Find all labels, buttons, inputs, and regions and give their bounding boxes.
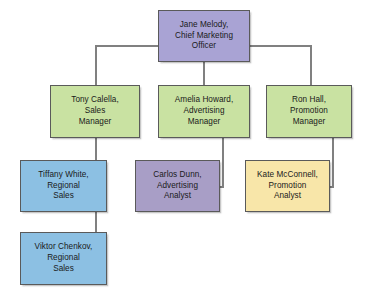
org-node-line: Sales [53, 191, 74, 202]
org-node-line: Sales [53, 264, 74, 275]
edge-jane-to-ron [250, 46, 311, 85]
org-node-line: Sales [85, 106, 106, 117]
org-node-line: Viktor Chenkov, [35, 242, 93, 253]
org-node-carlos-dunn[interactable]: Carlos Dunn, Advertising Analyst [135, 160, 220, 212]
org-node-line: Analyst [274, 191, 301, 202]
org-node-amelia-howard[interactable]: Amelia Howard, Advertising Manager [158, 85, 250, 138]
org-node-line: Amelia Howard, [175, 95, 234, 106]
org-node-tony-calella[interactable]: Tony Calella, Sales Manager [50, 85, 140, 138]
org-node-tiffany-white[interactable]: Tiffany White, Regional Sales [20, 160, 107, 212]
org-chart: Jane Melody, Chief Marketing Officer Ton… [0, 0, 376, 302]
edge-ron-to-kate [330, 138, 333, 187]
org-node-line: Manager [188, 117, 221, 128]
org-node-line: Advertising [183, 106, 224, 117]
org-node-line: Promotion [290, 106, 328, 117]
org-node-line: Ron Hall, [292, 95, 326, 106]
org-node-line: Analyst [164, 191, 191, 202]
org-node-line: Tony Calella, [71, 95, 119, 106]
org-node-line: Jane Melody, [180, 20, 229, 31]
org-node-line: Regional [47, 181, 80, 192]
org-node-line: Kate McConnell, [257, 170, 318, 181]
edge-amelia-to-carlos [220, 138, 223, 187]
org-node-viktor-chenkov[interactable]: Viktor Chenkov, Regional Sales [20, 232, 107, 285]
org-node-line: Tiffany White, [38, 170, 88, 181]
org-node-line: Regional [47, 253, 80, 264]
edge-jane-to-tony [96, 46, 158, 85]
org-node-line: Officer [192, 41, 216, 52]
org-node-jane-melody[interactable]: Jane Melody, Chief Marketing Officer [158, 10, 250, 62]
org-node-line: Chief Marketing [175, 31, 233, 42]
org-node-line: Carlos Dunn, [153, 170, 201, 181]
org-node-line: Manager [79, 117, 112, 128]
org-node-kate-mcconnell[interactable]: Kate McConnell, Promotion Analyst [245, 160, 330, 212]
org-node-line: Advertising [157, 181, 198, 192]
org-node-line: Manager [293, 117, 326, 128]
org-node-ron-hall[interactable]: Ron Hall, Promotion Manager [266, 85, 352, 138]
org-node-line: Promotion [269, 181, 307, 192]
